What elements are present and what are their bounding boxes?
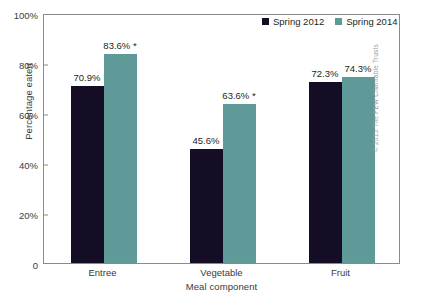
bar: 74.3% (342, 77, 375, 263)
y-tick-label: 60% (19, 110, 44, 121)
y-tick-mark (44, 165, 48, 166)
legend-label: Spring 2014 (346, 16, 397, 27)
bar: 70.9% (71, 86, 104, 263)
bar: 45.6% (190, 149, 223, 263)
bar-value-label: 83.6% * (103, 40, 136, 51)
y-tick-label: 20% (19, 210, 44, 221)
y-tick-label: 80% (19, 60, 44, 71)
y-tick-label: 100% (14, 10, 44, 21)
x-category-label: Vegetable (200, 267, 242, 278)
bar-value-label: 45.6% (193, 135, 220, 146)
bar-value-label: 72.3% (312, 68, 339, 79)
legend-swatch-icon (335, 18, 342, 25)
x-category-label: Entree (89, 267, 117, 278)
bar-value-label: 70.9% (74, 72, 101, 83)
legend-swatch-icon (262, 18, 269, 25)
y-tick-mark (44, 65, 48, 66)
bar: 63.6% * (223, 104, 256, 263)
legend-label: Spring 2012 (273, 16, 324, 27)
y-tick-mark (44, 215, 48, 216)
chart-figure: Percentage eaten Meal component 020%40%6… (0, 0, 425, 304)
x-axis-label: Meal component (43, 281, 400, 292)
y-tick-label: 40% (19, 160, 44, 171)
bar-value-label: 74.3% (345, 63, 372, 74)
plot-area: 020%40%60%80%100% 70.9%83.6% *45.6%63.6%… (43, 14, 400, 264)
bar: 83.6% * (104, 54, 137, 263)
copyright-credit: © 2015 The PEW Charitable Trusts (372, 32, 379, 152)
y-axis-label: Percentage eaten (23, 22, 34, 182)
legend-item[interactable]: Spring 2012 (262, 16, 324, 27)
bar: 72.3% (309, 82, 342, 263)
chart-legend: Spring 2012Spring 2014 (262, 16, 397, 27)
y-tick-label: 0 (33, 260, 44, 271)
y-tick-mark (44, 115, 48, 116)
bar-value-label: 63.6% * (222, 90, 255, 101)
legend-item[interactable]: Spring 2014 (335, 16, 397, 27)
x-category-label: Fruit (331, 267, 350, 278)
